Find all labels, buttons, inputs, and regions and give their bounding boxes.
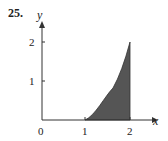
x-tick-label-1: 1 (82, 125, 88, 137)
y-tick-label-2: 2 (29, 36, 35, 48)
y-tick-label-1: 1 (29, 75, 35, 87)
x-tick-label-0: 0 (38, 125, 44, 137)
area-chart: y x 2 1 0 1 2 (0, 0, 168, 141)
x-axis-label: x (152, 114, 159, 128)
shaded-region (85, 42, 130, 120)
x-tick-label-2: 2 (127, 125, 133, 137)
y-axis-arrow-icon (39, 21, 45, 28)
y-axis-label: y (36, 8, 43, 22)
